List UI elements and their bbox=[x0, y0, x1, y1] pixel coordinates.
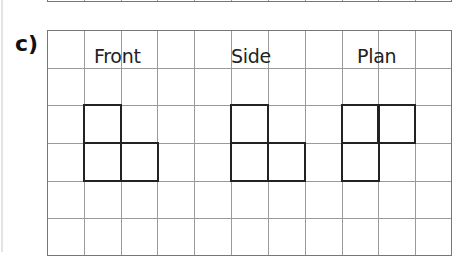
previous-question-grid bbox=[47, 0, 452, 2]
front-view-square bbox=[83, 142, 122, 182]
grid-line bbox=[84, 0, 85, 1]
side-view-square bbox=[230, 104, 269, 144]
front-view-square bbox=[83, 104, 122, 144]
grid-line bbox=[231, 0, 232, 1]
question-label: c) bbox=[15, 31, 38, 56]
grid-line bbox=[194, 0, 195, 1]
page-margin-rule bbox=[1, 0, 3, 252]
front-view-label: Front bbox=[94, 45, 141, 67]
grid-line bbox=[121, 0, 122, 1]
side-view-label: Side bbox=[231, 45, 271, 67]
front-view-square bbox=[120, 142, 159, 182]
side-view-square bbox=[267, 142, 306, 182]
grid-line bbox=[157, 0, 158, 1]
grid-line bbox=[48, 218, 451, 219]
plan-view-square bbox=[341, 142, 380, 182]
grid-line bbox=[415, 0, 416, 1]
grid-line bbox=[48, 68, 451, 69]
grid-line bbox=[268, 0, 269, 1]
plan-view-square bbox=[341, 104, 380, 144]
grid-line bbox=[378, 0, 379, 1]
grid-line bbox=[342, 0, 343, 1]
side-view-square bbox=[230, 142, 269, 182]
plan-view-label: Plan bbox=[357, 45, 396, 67]
plan-view-square bbox=[377, 104, 416, 144]
grid-line bbox=[305, 0, 306, 1]
